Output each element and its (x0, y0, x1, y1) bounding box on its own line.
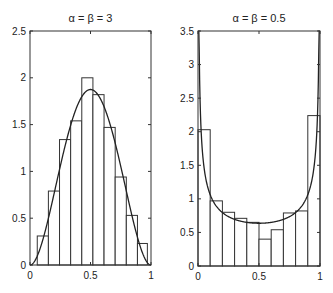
right-plot: 00.511.522.533.500.51α = β = 0.5 (180, 12, 323, 282)
x-tick-label: 0.5 (252, 271, 266, 282)
x-tick-label: 0.5 (84, 270, 98, 281)
x-tick-label: 1 (148, 270, 154, 281)
left-plot: 00.511.522.500.51α = β = 3 (12, 12, 154, 281)
y-tick-label: 0 (20, 260, 26, 271)
y-tick-label: 2.5 (12, 26, 26, 37)
y-tick-label: 2.5 (180, 93, 194, 104)
y-tick-label: 0.5 (12, 213, 26, 224)
histogram-bar (82, 78, 93, 265)
histogram-bar (104, 127, 115, 265)
y-tick-label: 1 (188, 193, 194, 204)
histogram-bar (222, 212, 234, 266)
plot-title: α = β = 0.5 (232, 12, 285, 24)
y-tick-label: 3 (188, 59, 194, 70)
y-tick-label: 2 (188, 126, 194, 137)
histogram-bar (126, 215, 137, 265)
plot-title: α = β = 3 (69, 12, 113, 24)
histogram-bar (48, 191, 59, 265)
histogram-bar (235, 218, 247, 266)
histogram-bar (93, 95, 104, 265)
histogram-bar (296, 211, 308, 266)
histogram-bar (259, 239, 271, 266)
x-tick-label: 0 (27, 270, 33, 281)
histogram-bar (71, 121, 82, 265)
y-tick-label: 1 (20, 166, 26, 177)
y-tick-label: 3.5 (180, 26, 194, 37)
figure: 00.511.522.500.51α = β = 3 00.511.522.53… (0, 0, 333, 293)
histogram-bar (247, 222, 259, 266)
density-curve (199, 31, 320, 223)
x-tick-label: 1 (317, 271, 323, 282)
histogram-bar (271, 230, 283, 266)
y-tick-label: 0 (188, 261, 194, 272)
y-tick-label: 2 (20, 72, 26, 83)
x-tick-label: 0 (195, 271, 201, 282)
histogram-bar (283, 213, 295, 266)
histogram-bar (115, 177, 126, 265)
y-tick-label: 1.5 (12, 119, 26, 130)
histogram-bar (60, 140, 71, 265)
y-tick-label: 0.5 (180, 227, 194, 238)
histogram-bar (198, 130, 210, 266)
y-tick-label: 1.5 (180, 160, 194, 171)
